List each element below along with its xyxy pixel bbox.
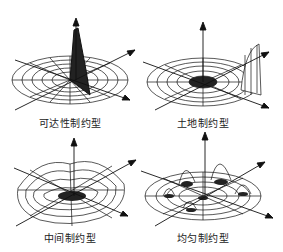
surface-plot-accessibility — [0, 0, 141, 126]
panel-accessibility: 可达性制约型 — [0, 0, 141, 126]
label-intermediate: 中间制约型 — [44, 230, 97, 245]
panel-intermediate: 中间制约型 — [0, 126, 141, 252]
label-uniform: 均匀制约型 — [177, 230, 230, 245]
surface-plot-land — [141, 0, 282, 126]
panel-land: 土地制约型 — [141, 0, 282, 126]
panel-uniform: 均匀制约型 — [141, 126, 282, 252]
